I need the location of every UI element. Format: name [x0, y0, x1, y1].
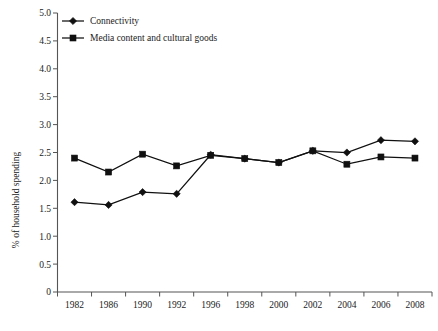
x-axis-tickmarks — [58, 292, 433, 297]
legend-label: Media content and cultural goods — [90, 33, 217, 43]
data-point — [310, 148, 316, 154]
y-tick-label: 2.0 — [39, 176, 51, 186]
x-tick-label: 2004 — [337, 300, 356, 310]
data-point — [72, 155, 78, 161]
y-tick-label: 4.0 — [39, 64, 51, 74]
line-chart: 00.51.01.52.02.53.03.54.04.55.0 19821986… — [0, 0, 438, 331]
x-tick-label: 2006 — [371, 300, 390, 310]
y-axis-tick-labels: 00.51.01.52.02.53.03.54.04.55.0 — [39, 8, 51, 297]
y-axis-tickmarks — [53, 13, 58, 292]
data-point — [139, 189, 146, 196]
data-point — [140, 151, 146, 157]
data-point — [242, 156, 248, 162]
legend-label: Connectivity — [90, 16, 139, 26]
x-tick-label: 2002 — [303, 300, 322, 310]
data-point — [71, 199, 78, 206]
y-tick-label: 0 — [46, 287, 51, 297]
x-tick-label: 1990 — [133, 300, 152, 310]
data-point — [377, 137, 384, 144]
y-tick-label: 4.5 — [39, 36, 51, 46]
legend-marker-diamond — [69, 17, 76, 24]
x-tick-label: 2008 — [405, 300, 424, 310]
x-tick-label: 2000 — [269, 300, 288, 310]
data-point — [344, 161, 350, 167]
y-tick-label: 3.5 — [39, 92, 51, 102]
data-point — [343, 149, 350, 156]
x-axis-tick-labels: 1982198619901992199619982000200220042006… — [65, 300, 425, 310]
x-tick-label: 1998 — [235, 300, 254, 310]
series-layer — [71, 137, 419, 209]
legend-item-connectivity[interactable]: Connectivity — [62, 16, 139, 26]
x-tick-label: 1992 — [167, 300, 186, 310]
data-point — [105, 201, 112, 208]
data-point — [378, 154, 384, 160]
chart-legend: ConnectivityMedia content and cultural g… — [62, 16, 217, 43]
legend-marker-square — [70, 35, 76, 41]
data-point — [411, 138, 418, 145]
data-point — [208, 152, 214, 158]
y-tick-label: 2.5 — [39, 148, 51, 158]
legend-item-media-content[interactable]: Media content and cultural goods — [62, 33, 217, 43]
figure-container: 00.51.01.52.02.53.03.54.04.55.0 19821986… — [0, 0, 438, 331]
data-point — [174, 163, 180, 169]
y-axis-title: % of household spending — [11, 152, 21, 249]
data-point — [276, 160, 282, 166]
y-tick-label: 1.0 — [39, 232, 51, 242]
series-connectivity — [71, 137, 419, 209]
x-tick-label: 1986 — [99, 300, 118, 310]
series-polyline — [75, 140, 415, 205]
data-point — [412, 155, 418, 161]
y-tick-label: 3.0 — [39, 120, 51, 130]
x-tick-label: 1996 — [201, 300, 220, 310]
y-tick-label: 1.5 — [39, 204, 51, 214]
y-tick-label: 0.5 — [39, 260, 51, 270]
x-tick-label: 1982 — [65, 300, 84, 310]
series-media-content — [72, 148, 418, 175]
y-tick-label: 5.0 — [39, 8, 51, 18]
data-point — [106, 169, 112, 175]
